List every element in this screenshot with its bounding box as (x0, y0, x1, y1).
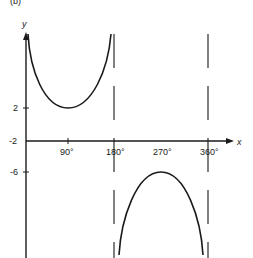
lower-branch-curve (119, 172, 203, 255)
y-tick-neg2: -2 (9, 136, 17, 146)
panel-label: (b) (10, 0, 21, 6)
y-tick-2: 2 (13, 103, 18, 113)
x-tick-360: 360° (200, 147, 219, 157)
x-tick-90: 90° (60, 147, 74, 157)
x-axis-arrow-icon (226, 138, 234, 144)
x-tick-180: 180° (106, 147, 125, 157)
chart: (b) y x 90° 180° 270° 360° 2 -2 -6 (0, 0, 253, 258)
y-axis-label: y (21, 19, 27, 29)
upper-branch-curve (28, 34, 111, 108)
x-axis-label: x (236, 137, 242, 147)
y-tick-neg6: -6 (10, 167, 18, 177)
x-tick-270: 270° (153, 147, 172, 157)
